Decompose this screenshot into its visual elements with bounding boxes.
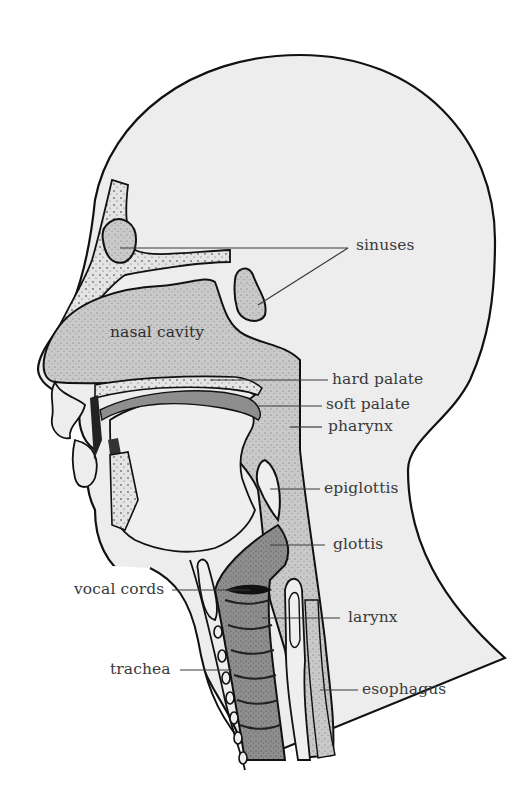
label-vocal-cords: vocal cords: [74, 582, 164, 598]
label-sinuses: sinuses: [356, 238, 415, 254]
label-trachea: trachea: [110, 662, 171, 678]
label-epiglottis: epiglottis: [324, 481, 399, 497]
head-neck-anatomy-diagram: [0, 0, 532, 785]
label-glottis: glottis: [333, 537, 383, 553]
frontal-sinus: [103, 219, 136, 263]
label-pharynx: pharynx: [328, 419, 393, 435]
label-nasal-cavity: nasal cavity: [110, 325, 204, 341]
label-esophagus: esophagus: [362, 682, 446, 698]
label-larynx: larynx: [348, 610, 398, 626]
label-hard-palate: hard palate: [332, 372, 423, 388]
label-soft-palate: soft palate: [326, 397, 410, 413]
